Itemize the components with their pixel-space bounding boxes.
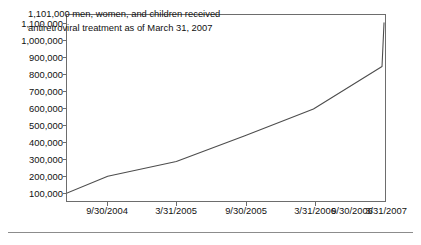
x-tick-label: 3/31/2007 xyxy=(365,205,407,217)
y-tick-label: 400,000 xyxy=(1,138,63,148)
y-tick-label: 1,000,000 xyxy=(1,36,63,46)
y-tick-label: 900,000 xyxy=(1,53,63,63)
x-tick-label: 9/30/2005 xyxy=(225,205,267,217)
x-axis: 9/30/2004 3/31/2005 9/30/2005 3/31/2006 … xyxy=(0,205,421,223)
x-tick-label: 9/30/2004 xyxy=(86,205,128,217)
x-tick-label: 3/31/2006 xyxy=(294,205,336,217)
y-tick-label: 300,000 xyxy=(1,155,63,165)
y-tick-label: 500,000 xyxy=(1,121,63,131)
y-tick-label: 700,000 xyxy=(1,87,63,97)
chart-figure: 1,100,000 1,000,000 900,000 800,000 700,… xyxy=(0,0,421,245)
chart-annotation: 1,101,000 men, women, and children recei… xyxy=(28,7,296,34)
plot-area xyxy=(66,14,386,202)
y-tick-label: 200,000 xyxy=(1,172,63,182)
y-tick-label: 800,000 xyxy=(1,70,63,80)
y-tick-label: 100,000 xyxy=(1,189,63,199)
data-series-line xyxy=(67,15,385,201)
x-tick-label: 3/31/2005 xyxy=(155,205,197,217)
y-tick-label: 600,000 xyxy=(1,104,63,114)
footer-divider xyxy=(8,232,413,233)
